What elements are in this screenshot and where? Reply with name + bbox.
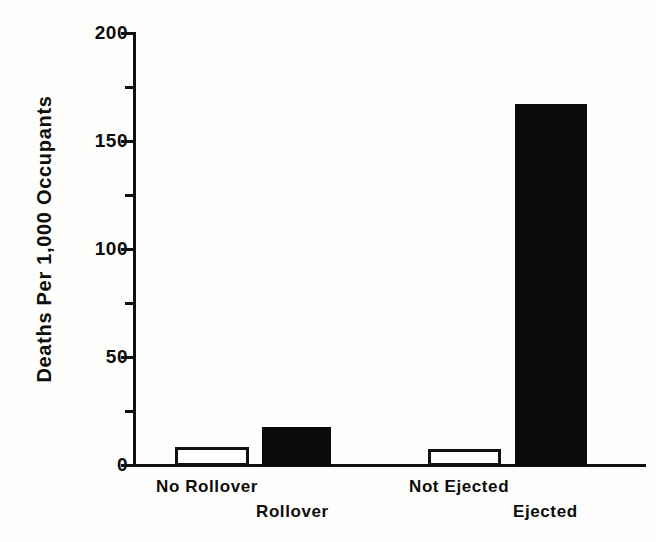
x-label-not-ejected: Not Ejected <box>409 477 509 497</box>
plot-area <box>0 0 656 542</box>
x-label-no-rollover: No Rollover <box>156 477 258 497</box>
bar-ejected <box>515 104 587 466</box>
bar-chart: Deaths Per 1,000 Occupants 200 150 100 5… <box>0 0 656 542</box>
bar-no-rollover <box>175 447 249 466</box>
x-label-rollover: Rollover <box>256 502 329 522</box>
bar-not-ejected <box>428 449 501 466</box>
bar-rollover <box>262 427 331 466</box>
x-label-ejected: Ejected <box>513 502 578 522</box>
